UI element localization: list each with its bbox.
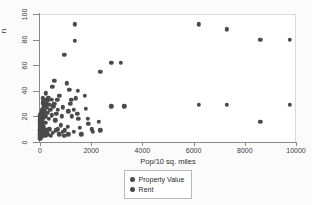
scatter-plot-figure: 020406080100 0200040006000800010000 n Po… xyxy=(0,0,312,205)
y-tick-mark xyxy=(33,65,39,66)
y-tick-mark xyxy=(33,91,39,92)
x-tick-mark xyxy=(142,142,143,146)
x-tick-label: 0 xyxy=(38,147,42,154)
x-tick-mark xyxy=(296,142,297,146)
legend-label: Property Value xyxy=(139,176,185,183)
legend-item-property-value[interactable]: Property Value xyxy=(130,175,184,184)
y-tick-label-text: 80 xyxy=(21,36,28,44)
y-tick-label: 100 xyxy=(18,9,32,19)
y-tick-label-text: 60 xyxy=(21,61,28,69)
y-axis-title-text: n xyxy=(0,29,8,33)
x-tick-label: 8000 xyxy=(237,147,253,154)
y-tick-label: 60 xyxy=(18,60,32,70)
x-axis-line xyxy=(39,142,297,143)
x-tick-label: 10000 xyxy=(286,147,305,154)
y-tick-label: 0 xyxy=(18,137,32,147)
x-tick-mark xyxy=(245,142,246,146)
y-tick-label-text: 20 xyxy=(21,112,28,120)
chart-legend: Property Value Rent xyxy=(124,170,192,199)
x-tick-label: 2000 xyxy=(83,147,99,154)
y-tick-label-text: 40 xyxy=(21,87,28,95)
plot-area xyxy=(40,14,296,142)
x-tick-mark xyxy=(91,142,92,146)
x-tick-mark xyxy=(40,142,41,146)
y-tick-label-text: 100 xyxy=(22,8,29,20)
y-tick-mark xyxy=(33,40,39,41)
y-tick-label: 20 xyxy=(18,111,32,121)
legend-item-rent[interactable]: Rent xyxy=(130,185,184,194)
y-tick-label: 40 xyxy=(18,86,32,96)
x-tick-label: 6000 xyxy=(186,147,202,154)
legend-marker-icon xyxy=(130,177,135,182)
x-tick-label: 4000 xyxy=(135,147,151,154)
y-axis-title: n xyxy=(0,18,10,44)
x-axis-title: Pop/10 sq. miles xyxy=(40,157,296,166)
legend-marker-icon xyxy=(130,187,135,192)
y-tick-mark xyxy=(33,14,39,15)
y-tick-label-text: 0 xyxy=(22,140,29,144)
y-tick-label: 80 xyxy=(18,35,32,45)
x-tick-mark xyxy=(194,142,195,146)
legend-label: Rent xyxy=(139,186,154,193)
y-tick-mark xyxy=(33,142,39,143)
